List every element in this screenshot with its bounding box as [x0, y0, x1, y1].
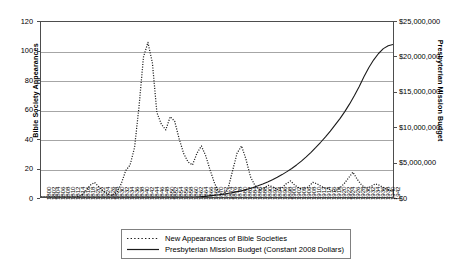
y-axis-left-tick-label: 80 — [0, 76, 33, 85]
legend-item-bible-societies: New Appearances of Bible Societies — [126, 233, 344, 244]
plot-area — [40, 21, 394, 198]
legend-key-dotted — [126, 234, 160, 243]
legend-label-bible-societies: New Appearances of Bible Societies — [165, 234, 287, 243]
y-axis-right-tick-label: $10,000,000 — [399, 123, 440, 132]
chart-container: Bible Society Appearances Presbyterian M… — [0, 0, 463, 263]
y-axis-left-tick-label: 100 — [0, 46, 33, 55]
legend-label-mission-budget: Presbyterian Mission Budget (Constant 20… — [165, 245, 344, 254]
y-axis-left-tickmark — [37, 198, 40, 199]
series-lines — [41, 22, 393, 197]
y-axis-right-tick-label: $15,000,000 — [399, 87, 440, 96]
y-axis-left-title: Bible Society Appearances — [31, 11, 40, 171]
y-axis-right-tickmark — [394, 56, 397, 57]
y-axis-right-tick-label: $20,000,000 — [399, 52, 440, 61]
y-axis-right-tick-label: $5,000,000 — [399, 158, 436, 167]
y-axis-left-tick-label: 20 — [0, 164, 33, 173]
y-axis-left-tick-label: 40 — [0, 135, 33, 144]
y-axis-left-tick-label: 0 — [0, 194, 33, 203]
legend-item-mission-budget: Presbyterian Mission Budget (Constant 20… — [126, 244, 344, 255]
legend-key-solid — [126, 245, 160, 254]
y-axis-left-tick-label: 120 — [0, 17, 33, 26]
line-presbyterian-mission-budget — [41, 44, 393, 197]
y-axis-right-tickmark — [394, 127, 397, 128]
chart-legend: New Appearances of Bible Societies Presb… — [121, 229, 351, 259]
y-axis-right-tickmark — [394, 92, 397, 93]
y-axis-left-tick-label: 60 — [0, 105, 33, 114]
y-axis-right-tickmark — [394, 21, 397, 22]
line-bible-society-appearances — [41, 42, 393, 197]
y-axis-right-tick-label: $25,000,000 — [399, 17, 440, 26]
y-axis-right-tickmark — [394, 163, 397, 164]
x-axis-tick-label: 1942 — [394, 187, 401, 200]
